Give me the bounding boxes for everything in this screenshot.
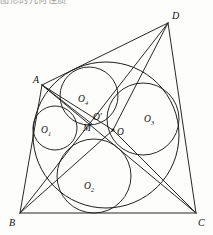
- circle-label-O1: O 1: [41, 125, 51, 137]
- point-label-O-prime: O′: [93, 112, 103, 122]
- point-dot-O: [112, 129, 115, 132]
- vertex-label-C: C: [198, 217, 205, 228]
- circle-label-O4-sub: 4: [85, 99, 88, 106]
- circle-label-O3-sub: 3: [150, 119, 154, 126]
- circle-label-O2: O 2: [84, 181, 94, 193]
- circle-label-O3-main: O: [144, 114, 151, 124]
- vertex-label-A: A: [32, 74, 40, 85]
- circle-label-O4-main: O: [78, 94, 85, 104]
- side-CD: [168, 23, 196, 213]
- circle-label-O3: O 3: [144, 114, 154, 126]
- vertex-label-B: B: [9, 217, 15, 228]
- circle-label-O2-main: O: [84, 181, 91, 191]
- circle-label-O1-main: O: [41, 125, 48, 135]
- point-label-M: M: [82, 123, 92, 133]
- circle-O4: [60, 67, 118, 125]
- circle-O1: [33, 106, 77, 150]
- geometry-canvas: A B C D O 1 O 2 O 3 O 4 O O′ M: [0, 0, 213, 235]
- circle-label-O4: O 4: [78, 94, 88, 106]
- cevian-D-O: [113, 23, 168, 130]
- point-label-O: O: [117, 127, 124, 137]
- circle-label-O1-sub: 1: [48, 130, 51, 137]
- circle-O2: [57, 139, 131, 213]
- circle-incircle: [33, 62, 179, 208]
- cevian-C-O: [113, 130, 196, 213]
- circle-label-O2-sub: 2: [91, 186, 94, 193]
- geometry-figure: 图形的几何性质 A B C D O 1: [0, 0, 213, 235]
- side-AB: [20, 85, 42, 213]
- vertex-label-D: D: [171, 10, 180, 21]
